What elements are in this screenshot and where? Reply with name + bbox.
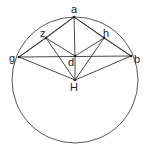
geometry-diagram: a z h g b d H — [0, 0, 149, 153]
label-h: h — [103, 27, 109, 39]
segment-h-b — [104, 38, 131, 56]
label-g: g — [9, 52, 15, 64]
segment-z-d — [46, 38, 75, 56]
segments — [19, 17, 131, 80]
point-b — [130, 55, 133, 58]
segment-a-h — [74, 17, 104, 38]
point-a — [73, 16, 76, 19]
segment-a-z — [46, 17, 74, 38]
point-g — [18, 56, 21, 59]
label-d: d — [68, 56, 74, 68]
segment-a-d — [74, 17, 75, 56]
label-a: a — [71, 3, 78, 15]
label-H: H — [70, 81, 78, 93]
segment-d-h — [75, 38, 104, 56]
segment-g-z — [19, 38, 46, 57]
label-z: z — [40, 27, 46, 39]
label-b: b — [134, 53, 140, 65]
